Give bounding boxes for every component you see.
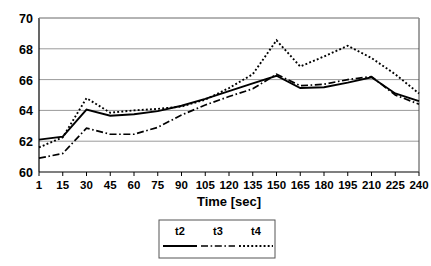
legend-label-t2: t2 — [175, 225, 185, 237]
y-tick-label-66: 66 — [19, 74, 33, 88]
y-tick-label-60: 60 — [19, 166, 33, 180]
chart-figure: 6062646668701153045607590105120135150165… — [0, 0, 431, 266]
x-tick-label-210: 210 — [362, 179, 381, 191]
x-tick-label-105: 105 — [196, 179, 216, 191]
x-tick-label-150: 150 — [267, 179, 286, 191]
x-tick-label-75: 75 — [151, 179, 164, 191]
x-tick-label-135: 135 — [243, 179, 263, 191]
x-tick-label-225: 225 — [386, 179, 406, 191]
x-tick-label-120: 120 — [219, 179, 238, 191]
plot-background — [39, 18, 419, 172]
y-tick-label-64: 64 — [19, 104, 33, 118]
y-tick-label-68: 68 — [19, 43, 33, 57]
x-axis-title: Time [sec] — [197, 194, 261, 209]
legend-label-t3: t3 — [213, 225, 223, 237]
x-tick-label-195: 195 — [338, 179, 358, 191]
x-tick-label-240: 240 — [409, 179, 428, 191]
x-tick-label-180: 180 — [314, 179, 333, 191]
x-tick-label-1: 1 — [36, 179, 43, 191]
line-chart: 6062646668701153045607590105120135150165… — [0, 0, 431, 266]
y-tick-label-62: 62 — [19, 135, 33, 149]
x-tick-label-60: 60 — [128, 179, 141, 191]
x-tick-label-30: 30 — [80, 179, 93, 191]
x-tick-label-45: 45 — [104, 179, 117, 191]
y-tick-label-70: 70 — [19, 12, 33, 26]
x-tick-label-15: 15 — [56, 179, 69, 191]
x-tick-label-90: 90 — [175, 179, 188, 191]
x-tick-label-165: 165 — [291, 179, 311, 191]
legend-label-t4: t4 — [251, 225, 262, 237]
